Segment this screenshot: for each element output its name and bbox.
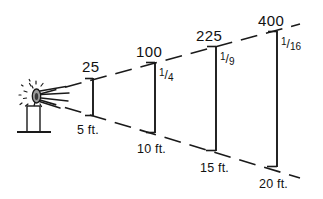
distance-label-10ft: 10 ft. xyxy=(137,143,166,156)
distance-label-5ft: 5 ft. xyxy=(77,124,99,137)
fraction-denominator: 16 xyxy=(290,41,301,52)
screen-20ft xyxy=(267,31,277,167)
candle-flame-core-icon xyxy=(35,93,38,100)
fraction-label-20ft: 1/16 xyxy=(281,37,301,52)
fraction-denominator: 9 xyxy=(229,56,235,67)
area-label-10ft: 100 xyxy=(136,44,162,59)
fraction-label-15ft: 1/9 xyxy=(220,52,234,67)
diagram-canvas xyxy=(0,0,323,199)
upper-light-ray-dashed xyxy=(40,24,300,94)
area-label-15ft: 225 xyxy=(196,28,222,43)
screen-5ft xyxy=(85,78,93,116)
fraction-denominator: 4 xyxy=(168,72,174,83)
area-label-20ft: 400 xyxy=(258,13,284,28)
distance-label-15ft: 15 ft. xyxy=(200,162,229,175)
screen-10ft xyxy=(146,62,155,133)
candle-body-icon xyxy=(27,106,40,132)
screen-15ft xyxy=(206,46,216,151)
candle-light-source xyxy=(17,80,69,133)
area-label-5ft: 25 xyxy=(82,59,100,74)
fraction-label-10ft: 1/4 xyxy=(159,68,173,83)
inverse-square-law-diagram: 25 100 225 400 1/4 1/9 1/16 5 ft. 10 ft.… xyxy=(0,0,323,199)
lower-light-ray-dashed xyxy=(40,100,300,178)
distance-label-20ft: 20 ft. xyxy=(259,178,288,191)
